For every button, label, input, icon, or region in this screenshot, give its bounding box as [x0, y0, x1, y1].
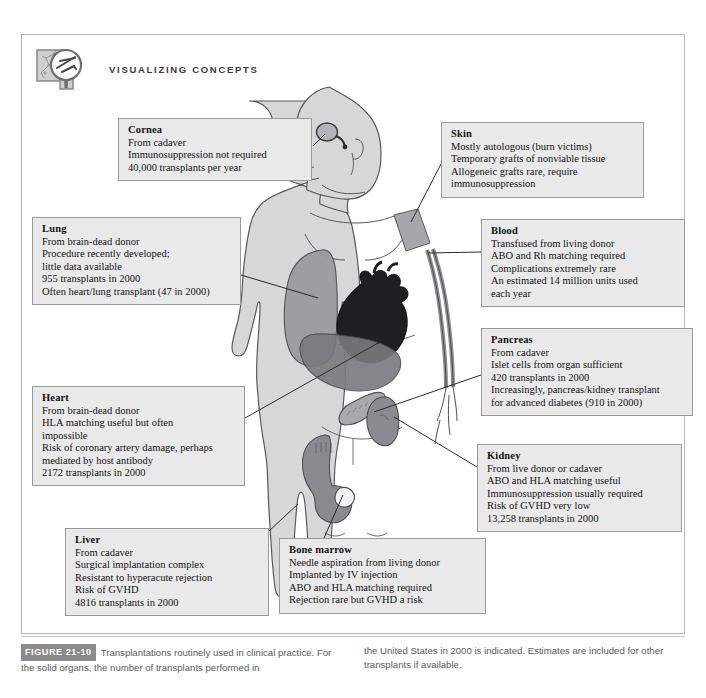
callout-line: HLA matching useful but often	[42, 417, 236, 429]
callout-line: Risk of GVHD	[75, 584, 260, 596]
leader-lung	[241, 275, 318, 298]
callout-line: Risk of coronary artery damage, perhaps	[42, 442, 236, 454]
caption-column-left: FIGURE 21-10Transplantations routinely u…	[21, 644, 342, 674]
callout-line: Needle aspiration from living donor	[289, 557, 477, 569]
callout-line: Immunosuppression not required	[128, 149, 303, 161]
visualizing-concepts-header: VISUALIZING CONCEPTS	[35, 45, 259, 93]
callout-title: Liver	[75, 534, 260, 546]
callout-line: Risk of GVHD very low	[487, 500, 673, 512]
callout-line: ABO and HLA matching required	[289, 582, 477, 594]
callout-line: Transfused from living donor	[491, 238, 676, 250]
skin-graft-patch	[394, 209, 430, 251]
callout-line: 420 transplants in 2000	[491, 372, 684, 384]
callout-lung: Lung From brain-dead donor Procedure rec…	[32, 217, 241, 305]
callout-heart: Heart From brain-dead donor HLA matching…	[32, 386, 245, 486]
callout-title: Blood	[491, 225, 676, 237]
callout-line: Often heart/lung transplant (47 in 2000)	[42, 286, 232, 298]
caption-column-right: the United States in 2000 is indicated. …	[364, 644, 685, 674]
callout-line: Resistant to hyperacute rejection	[75, 572, 260, 584]
callout-title: Cornea	[128, 124, 303, 136]
callout-line: each year	[491, 288, 676, 300]
callout-liver: Liver From cadaver Surgical implantation…	[65, 528, 269, 616]
figure-caption: FIGURE 21-10Transplantations routinely u…	[21, 644, 685, 674]
kidney-organ	[367, 397, 399, 446]
leader-pancreas	[374, 375, 481, 412]
callout-line: mediated by host antibody	[42, 455, 236, 467]
leader-heart	[245, 342, 380, 418]
callout-title: Lung	[42, 223, 232, 235]
callout-title: Skin	[451, 128, 635, 140]
callout-blood: Blood Transfused from living donor ABO a…	[481, 219, 685, 307]
magnifier-over-chart-icon	[35, 45, 95, 93]
callout-line: Allogeneic grafts rare, require	[451, 166, 635, 178]
figure-page: VISUALIZING CONCEPTS	[0, 0, 706, 698]
leader-skin	[411, 164, 441, 222]
leader-bone-marrow	[324, 495, 343, 538]
callout-line: Implanted by IV injection	[289, 569, 477, 581]
callout-line: immunosuppression	[451, 178, 635, 190]
callout-line: Increasingly, pancreas/kidney transplant	[491, 384, 684, 396]
lung-organ	[284, 250, 337, 366]
callout-title: Kidney	[487, 450, 673, 462]
caption-rule	[21, 636, 685, 637]
leader-kidney	[394, 417, 477, 467]
leader-cornea	[313, 134, 325, 146]
callout-line: Complications extremely rare	[491, 263, 676, 275]
callout-line: ABO and HLA matching useful	[487, 475, 673, 487]
callout-line: From cadaver	[75, 547, 260, 559]
blood-vessels	[427, 249, 457, 444]
callout-line: Temporary grafts of nonviable tissue	[451, 153, 635, 165]
callout-line: An estimated 14 million units used	[491, 275, 676, 287]
visualizing-concepts-title: VISUALIZING CONCEPTS	[109, 64, 259, 75]
callout-line: 955 transplants in 2000	[42, 273, 232, 285]
callout-line: From brain-dead donor	[42, 236, 232, 248]
callout-cornea: Cornea From cadaver Immunosuppression no…	[118, 118, 312, 181]
pancreas-organ	[339, 392, 385, 425]
pelvis-bone-marrow	[302, 435, 354, 523]
callout-line: From cadaver	[128, 137, 303, 149]
callout-skin: Skin Mostly autologous (burn victims) Te…	[441, 122, 644, 198]
callout-line: 4816 transplants in 2000	[75, 597, 260, 609]
caption-text-right: the United States in 2000 is indicated. …	[364, 645, 663, 670]
callout-title: Heart	[42, 392, 236, 404]
figure-frame: VISUALIZING CONCEPTS	[21, 34, 685, 634]
callout-line: From live donor or cadaver	[487, 463, 673, 475]
callout-line: 40,000 transplants per year	[128, 162, 303, 174]
callout-line: From brain-dead donor	[42, 405, 236, 417]
callout-line: 13,258 transplants in 2000	[487, 513, 673, 525]
callout-line: Mostly autologous (burn victims)	[451, 141, 635, 153]
heart-organ	[337, 262, 408, 363]
callout-title: Pancreas	[491, 334, 684, 346]
leader-blood	[428, 252, 481, 253]
callout-line: little data available	[42, 261, 232, 273]
cornea-eye	[317, 123, 348, 149]
callout-line: Procedure recently developed;	[42, 248, 232, 260]
callout-line: impossible	[42, 430, 236, 442]
callout-kidney: Kidney From live donor or cadaver ABO an…	[477, 444, 682, 532]
figure-number-badge: FIGURE 21-10	[21, 644, 96, 661]
callout-line: Rejection rare but GVHD a risk	[289, 594, 477, 606]
callout-line: Immunosuppression usually required	[487, 488, 673, 500]
callout-line: Surgical implantation complex	[75, 559, 260, 571]
callout-title: Bone marrow	[289, 544, 477, 556]
callout-line: ABO and Rh matching required	[491, 250, 676, 262]
callout-line: From cadaver	[491, 347, 684, 359]
liver-organ	[300, 334, 401, 391]
callout-line: Islet cells from organ sufficient	[491, 359, 684, 371]
callout-line: 2172 transplants in 2000	[42, 467, 236, 479]
leader-liver	[269, 504, 298, 531]
callout-bone-marrow: Bone marrow Needle aspiration from livin…	[279, 538, 486, 614]
callout-pancreas: Pancreas From cadaver Islet cells from o…	[481, 328, 693, 416]
callout-line: for advanced diabetes (910 in 2000)	[491, 397, 684, 409]
